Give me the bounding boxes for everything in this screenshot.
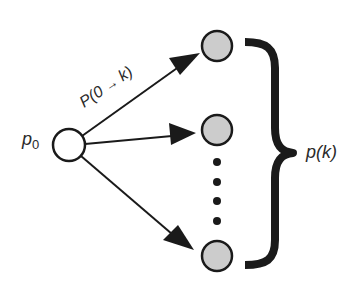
ellipsis-dot [213,197,221,205]
arrowhead-middle-icon [169,123,196,145]
ellipsis-dot [213,178,221,186]
ellipsis-dot [213,158,221,166]
ellipsis-dots [213,158,221,225]
edge-line-middle [85,136,172,144]
curly-brace-icon [245,42,293,265]
branching-diagram: p0 P(0 → k) p(k) [0,0,359,293]
source-node [53,129,85,161]
target-node-bottom [202,241,232,271]
target-node-top [202,31,232,61]
edge-line-bottom [81,156,172,234]
arrowhead-bottom-icon [163,225,194,250]
arrowheads [163,53,200,250]
brace-label-close: ) [329,142,337,162]
source-label: p0 [21,129,39,152]
brace-label: p(k) [305,142,337,162]
target-nodes [202,31,232,271]
source-label-subscript: 0 [32,137,39,152]
target-node-middle [202,115,232,145]
ellipsis-dot [213,217,221,225]
source-label-main: p [21,129,32,149]
